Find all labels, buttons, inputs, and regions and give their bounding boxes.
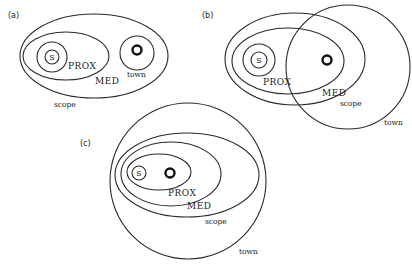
panel-a-label: (a)	[8, 11, 19, 20]
panel-b-scope-label: scope	[340, 99, 362, 108]
panel-a-town-circle	[120, 36, 154, 70]
panel-c-town-centre-icon	[166, 169, 175, 178]
panel-a-med-ellipse	[23, 32, 109, 80]
panel-b: (b) S PROX MED scope town	[202, 5, 410, 129]
panel-a-s-label: S	[49, 53, 54, 62]
panel-c-scope-label: scope	[205, 217, 227, 226]
panel-a-town-label: town	[127, 70, 146, 79]
panel-a-scope-label: scope	[54, 100, 76, 109]
panel-b-s-label: S	[256, 56, 261, 65]
panel-c: (c) S PROX MED scope town	[80, 103, 266, 259]
panel-c-town-label: town	[239, 247, 258, 256]
panel-b-label: (b)	[202, 11, 213, 20]
panel-c-prox-label: PROX	[168, 188, 197, 198]
panel-a-town-centre-icon	[133, 46, 142, 55]
panel-c-town-circle	[110, 103, 266, 259]
panel-c-s-label: S	[136, 169, 141, 178]
panel-b-prox-label: PROX	[263, 77, 292, 87]
panel-a-med-label: MED	[95, 76, 120, 86]
panel-b-town-label: town	[384, 118, 403, 127]
panel-b-med-label: MED	[322, 88, 347, 98]
panel-b-town-centre-icon	[323, 56, 332, 65]
panel-c-label: (c)	[80, 139, 91, 148]
panel-b-town-circle	[286, 5, 410, 129]
diagram-canvas: (a) S PROX MED town scope (b) S PROX MED…	[0, 0, 412, 271]
panel-a: (a) S PROX MED town scope	[8, 11, 168, 109]
panel-c-med-label: MED	[187, 201, 212, 211]
panel-a-scope-ellipse	[20, 14, 168, 98]
panel-a-prox-label: PROX	[68, 61, 97, 71]
